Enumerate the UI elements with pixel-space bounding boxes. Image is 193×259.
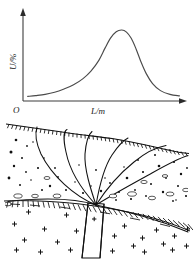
surface-hatching xyxy=(7,124,187,156)
figure-canvas: U/% L/m O xyxy=(0,0,193,259)
geologic-cross-section xyxy=(4,124,193,258)
x-axis-arrowhead xyxy=(179,98,187,103)
flow-line-2 xyxy=(64,130,96,206)
vein-left-edge xyxy=(82,203,88,258)
anomaly-curve xyxy=(28,30,180,96)
y-axis-arrowhead xyxy=(20,8,26,16)
y-axis-label: U/% xyxy=(8,54,18,71)
sp-anomaly-figure: U/% L/m O xyxy=(0,0,193,259)
flow-line-8 xyxy=(96,205,188,232)
flow-line-1 xyxy=(36,127,96,205)
origin-label: O xyxy=(13,105,20,115)
current-flow-lines xyxy=(8,127,188,232)
anomaly-plot: U/% L/m O xyxy=(8,8,187,116)
x-axis-label: L/m xyxy=(90,106,106,116)
